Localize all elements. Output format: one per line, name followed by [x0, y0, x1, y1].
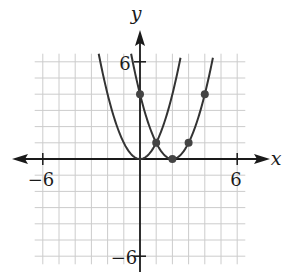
y-tick-label-6: 6 — [119, 53, 130, 74]
x-tick-label-6: 6 — [230, 169, 241, 190]
y-tick-label-neg6: −6 — [111, 247, 138, 268]
x-axis-label: x — [271, 147, 282, 169]
data-point — [136, 90, 144, 98]
data-point — [201, 90, 209, 98]
x-tick-label-neg6: −6 — [28, 169, 55, 190]
data-point — [152, 139, 160, 147]
axes — [12, 30, 270, 272]
coordinate-plane: x y −6 6 6 −6 — [0, 0, 290, 272]
data-point — [185, 139, 193, 147]
data-point — [168, 155, 176, 163]
y-axis-label: y — [130, 2, 142, 24]
